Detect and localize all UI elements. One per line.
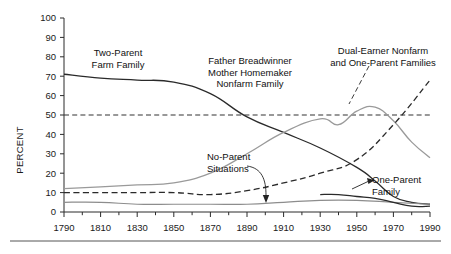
y-tick-label: 100 [40, 12, 56, 23]
y-tick-label: 50 [45, 109, 56, 120]
x-tick-label: 1970 [383, 222, 404, 233]
y-axis-title: PERCENT [14, 126, 25, 174]
annotation-dual-earner: Dual-Earner Nonfarm [338, 45, 428, 56]
y-tick-label: 0 [51, 206, 56, 217]
y-tick-label: 70 [45, 71, 56, 82]
annotation-no-parent: No-Parent [207, 151, 251, 162]
annotation-one-parent: Family [372, 186, 400, 197]
line-chart-canvas: 0102030405060708090100 17901810183018501… [0, 0, 451, 254]
y-axis-tick-labels: 0102030405060708090100 [40, 12, 56, 217]
x-tick-label: 1870 [200, 222, 221, 233]
y-tick-label: 20 [45, 168, 56, 179]
chart-figure: 0102030405060708090100 17901810183018501… [0, 0, 451, 254]
x-tick-label: 1790 [53, 222, 74, 233]
x-tick-label: 1850 [163, 222, 184, 233]
x-tick-label: 1890 [236, 222, 257, 233]
y-tick-label: 10 [45, 187, 56, 198]
x-tick-label: 1830 [127, 222, 148, 233]
y-tick-label: 80 [45, 51, 56, 62]
plot-annotations: Two-ParentFarm FamilyFather BreadwinnerM… [92, 45, 436, 197]
annotation-father-breadwinner: Nonfarm Family [216, 78, 283, 89]
annotation-dual-earner: and One-Parent Families [330, 57, 436, 68]
series-line [64, 200, 430, 204]
annotation-two-parent-farm: Two-Parent [94, 47, 143, 58]
x-axis-tick-labels: 1790181018301850187018901910193019501970… [53, 222, 440, 233]
annotation-two-parent-farm: Farm Family [92, 59, 145, 70]
x-tick-label: 1950 [346, 222, 367, 233]
annotation-father-breadwinner: Mother Homemaker [208, 67, 292, 78]
annotation-one-parent: One-Parent [372, 174, 421, 185]
x-tick-label: 1910 [273, 222, 294, 233]
x-tick-label: 1930 [310, 222, 331, 233]
x-tick-label: 1990 [419, 222, 440, 233]
no-parent-arrowhead [263, 195, 269, 203]
y-tick-label: 40 [45, 129, 56, 140]
annotation-father-breadwinner: Father Breadwinner [208, 55, 291, 66]
one-parent-leader [352, 181, 369, 189]
dual-earner-leader [349, 66, 369, 104]
y-tick-label: 30 [45, 148, 56, 159]
y-tick-label: 90 [45, 32, 56, 43]
x-tick-label: 1810 [90, 222, 111, 233]
annotation-no-parent: Situations [207, 163, 249, 174]
y-tick-label: 60 [45, 90, 56, 101]
